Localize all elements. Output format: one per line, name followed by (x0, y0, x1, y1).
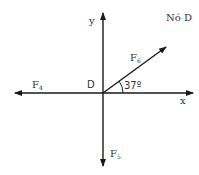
svg-text:F: F (32, 79, 39, 90)
title-label: Nó D (166, 12, 192, 23)
f4-label: F 4 (32, 79, 43, 91)
free-body-diagram: Nó D y x D 37º F 4 F 5 F 6 (0, 0, 199, 175)
svg-text:F: F (130, 52, 137, 63)
node-label: D (87, 79, 95, 90)
svg-text:6: 6 (137, 57, 141, 64)
svg-text:F: F (110, 148, 117, 159)
y-axis-label: y (88, 15, 95, 26)
f5-label: F 5 (110, 148, 121, 160)
svg-text:5: 5 (117, 153, 121, 160)
svg-text:4: 4 (39, 84, 43, 91)
f6-label: F 6 (130, 52, 141, 64)
angle-arc (119, 81, 123, 93)
x-axis-label: x (180, 95, 186, 106)
angle-label: 37º (124, 80, 142, 91)
